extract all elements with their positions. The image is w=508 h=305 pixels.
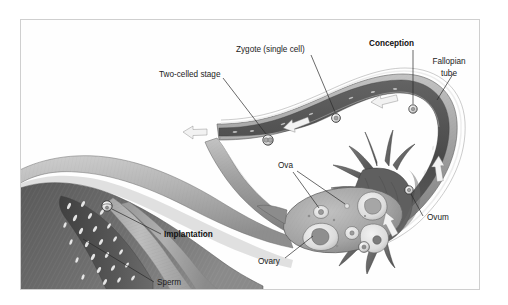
follicle-mid-nucleus xyxy=(350,231,354,235)
corpus-luteum-lower-core xyxy=(312,229,329,245)
label-ovum: Ovum xyxy=(427,213,449,222)
label-ovary: Ovary xyxy=(258,257,281,266)
cell-two-celled xyxy=(263,135,273,145)
corpus-luteum-upper-core xyxy=(365,198,382,214)
label-zygote-single-cell: Zygote (single cell) xyxy=(236,45,305,54)
cell-zygote xyxy=(332,114,341,123)
implantation-marker xyxy=(102,201,112,211)
label-sperm: Sperm xyxy=(157,278,181,287)
stroma-dot xyxy=(364,215,366,217)
fertilization-diagram: Two-celled stage Zygote (single cell) Co… xyxy=(21,20,479,289)
follicle-small-ovum-nucleus xyxy=(318,209,323,214)
cell-ovum-tube xyxy=(405,186,413,194)
follicle-tiny-ovum xyxy=(345,204,350,209)
uterus-group xyxy=(21,156,293,289)
label-fallopian-tube-line1: Fallopian xyxy=(432,57,466,66)
label-ova: Ova xyxy=(278,161,293,170)
stroma-dot xyxy=(308,215,311,218)
cell-conception xyxy=(409,105,417,113)
label-implantation: Implantation xyxy=(164,230,213,239)
stroma-dot xyxy=(336,245,339,248)
stroma-dot xyxy=(333,219,335,221)
label-fallopian-tube-line2: tube xyxy=(441,69,457,78)
figure-frame: Two-celled stage Zygote (single cell) Co… xyxy=(20,19,480,290)
released-ovum xyxy=(359,242,370,253)
figure-root: Two-celled stage Zygote (single cell) Co… xyxy=(0,0,508,305)
follicle-mature-ovum xyxy=(373,236,381,244)
label-two-celled-stage: Two-celled stage xyxy=(159,70,221,79)
label-conception: Conception xyxy=(369,39,414,48)
arrow-tube-left-1 xyxy=(183,126,207,139)
